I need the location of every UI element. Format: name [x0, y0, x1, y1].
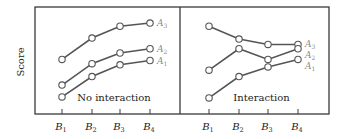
data-point: [117, 23, 123, 29]
series-line-a2: [62, 49, 150, 85]
data-point: [265, 56, 271, 62]
series-label-a2: A2: [304, 50, 316, 61]
x-tick-label: B2: [231, 121, 244, 134]
data-point: [147, 20, 153, 26]
data-point: [206, 67, 212, 73]
data-point: [117, 50, 123, 56]
data-point: [59, 94, 65, 100]
data-point: [236, 73, 242, 79]
interaction-chart: B1B2B3B4A3A2A1No interactionB1B2B3B4A3A2…: [0, 0, 347, 139]
x-tick-label: B4: [142, 121, 155, 134]
data-point: [147, 46, 153, 52]
series-label-a3: A3: [156, 18, 168, 29]
data-point: [147, 57, 153, 63]
data-point: [89, 61, 95, 67]
series-label-a1: A1: [156, 56, 167, 67]
data-point: [206, 23, 212, 29]
data-point: [295, 56, 301, 62]
series-line-a3: [209, 26, 298, 44]
data-point: [206, 95, 212, 101]
data-point: [236, 36, 242, 42]
series-label-a2: A2: [156, 44, 168, 55]
series-label-a1: A1: [304, 61, 315, 72]
y-axis-label: Score: [15, 47, 26, 76]
series-line-a3: [62, 23, 150, 59]
data-point: [265, 64, 271, 70]
series-line-a2: [209, 49, 298, 70]
data-point: [295, 46, 301, 52]
data-point: [265, 41, 271, 47]
data-point: [59, 56, 65, 62]
x-tick-label: B3: [112, 121, 125, 134]
data-point: [89, 73, 95, 79]
panel-title: No interaction: [77, 92, 151, 103]
data-point: [89, 35, 95, 41]
x-tick-label: B1: [54, 121, 67, 134]
x-tick-label: B3: [260, 121, 273, 134]
series-label-a3: A3: [304, 39, 316, 50]
x-tick-label: B2: [84, 121, 97, 134]
data-point: [117, 62, 123, 68]
data-point: [236, 46, 242, 52]
panel-title: Interaction: [233, 92, 290, 103]
data-point: [59, 82, 65, 88]
x-tick-label: B1: [201, 121, 214, 134]
x-tick-label: B4: [290, 121, 303, 134]
